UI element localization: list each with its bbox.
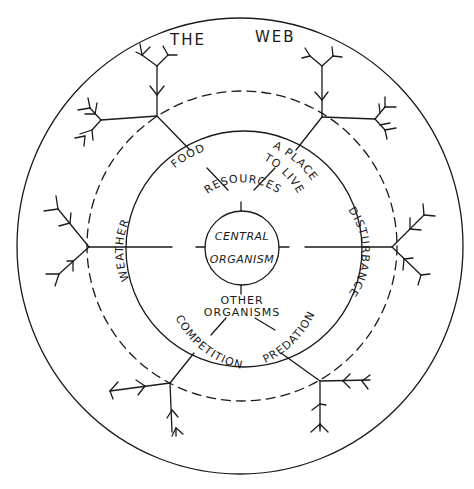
radial-upper-right [296,117,322,150]
label-weather: WEATHER [113,217,132,284]
center-label-line2: ORGANISM [210,253,274,266]
branch-tree-upper-left [75,44,177,146]
label-disturbance: DISTURBANCE [346,204,373,299]
link-organisms-predation [255,318,275,330]
branch-tree-left [44,196,89,286]
branch-tree-lower-right [311,374,370,432]
radial-lower-left [170,353,194,383]
web-diagram: THE WEB CENTRAL ORGANISM RESOURCES WEATH… [0,0,474,489]
outer-circle [17,18,463,474]
branch-tree-right [392,204,435,285]
central-organism-circle [205,211,279,285]
center-label-line1: CENTRAL [215,230,269,243]
link-organisms-competition [211,318,226,335]
diagram-title-web: WEB [255,28,296,46]
diagram-title-the: THE [169,31,206,49]
radial-upper-left [157,116,190,150]
radial-lower-right [281,353,320,381]
branch-tree-lower-left [110,380,183,436]
dashed-boundary-circle [87,91,397,401]
inner-circle [126,131,362,367]
label-competition: COMPETITION [173,313,245,372]
label-organisms: ORGANISMS [204,306,280,319]
